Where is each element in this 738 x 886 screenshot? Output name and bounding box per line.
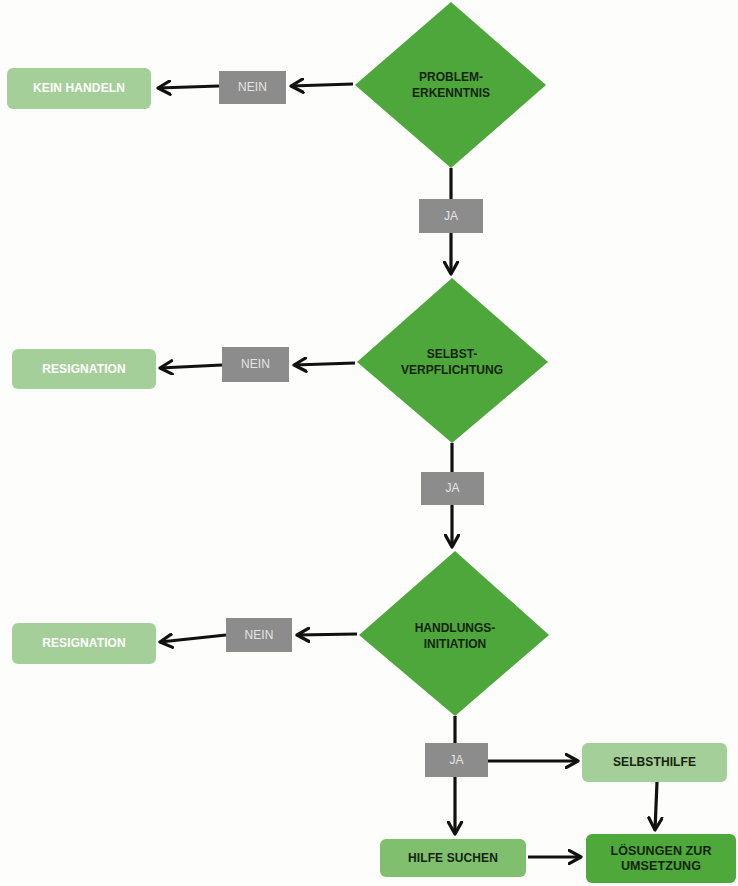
arrow-selbsthilfe-to-loesungen bbox=[655, 782, 657, 830]
arrow-diamond2-to-nein bbox=[294, 363, 355, 365]
arrow-nein2-to-resignation bbox=[160, 365, 222, 368]
nein-label-1: NEIN bbox=[219, 71, 286, 104]
arrow-diamond3-to-nein bbox=[297, 634, 357, 635]
decision-label-line1: HANDLUNGS- bbox=[415, 620, 496, 636]
decision-label-handlungsinitiation: HANDLUNGS- INITIATION bbox=[378, 614, 532, 658]
decision-label-selbstverpflichtung: SELBST- VERPFLICHTUNG bbox=[372, 340, 532, 384]
flowchart: PROBLEM- ERKENNTNIS SELBST- VERPFLICHTUN… bbox=[0, 0, 738, 886]
decision-label-problem-erkenntnis: PROBLEM- ERKENNTNIS bbox=[375, 65, 527, 105]
outcome-resignation-2: RESIGNATION bbox=[12, 623, 156, 664]
step-hilfe-suchen: HILFE SUCHEN bbox=[380, 839, 526, 877]
loesungen-line2: UMSETZUNG bbox=[621, 859, 701, 874]
nein-label-3: NEIN bbox=[226, 618, 292, 652]
decision-label-line2: ERKENNTNIS bbox=[412, 85, 490, 101]
ja-label-1: JA bbox=[419, 199, 483, 233]
ja-label-3: JA bbox=[425, 743, 488, 777]
loesungen-line1: LÖSUNGEN ZUR bbox=[610, 844, 711, 859]
decision-label-line2: VERPFLICHTUNG bbox=[401, 362, 503, 378]
nein-label-2: NEIN bbox=[222, 347, 289, 382]
step-loesungen-zur-umsetzung: LÖSUNGEN ZUR UMSETZUNG bbox=[586, 834, 736, 883]
step-selbsthilfe: SELBSTHILFE bbox=[582, 743, 727, 782]
decision-label-line1: PROBLEM- bbox=[419, 69, 483, 85]
arrow-nein3-to-resignation bbox=[160, 635, 226, 642]
outcome-resignation-1: RESIGNATION bbox=[12, 349, 156, 389]
decision-label-line2: INITIATION bbox=[424, 636, 486, 652]
ja-label-2: JA bbox=[421, 472, 484, 505]
arrow-nein1-to-kein-handeln bbox=[158, 86, 219, 88]
decision-label-line1: SELBST- bbox=[427, 346, 478, 362]
outcome-kein-handeln: KEIN HANDELN bbox=[7, 68, 151, 109]
arrow-diamond1-to-nein bbox=[291, 84, 353, 86]
